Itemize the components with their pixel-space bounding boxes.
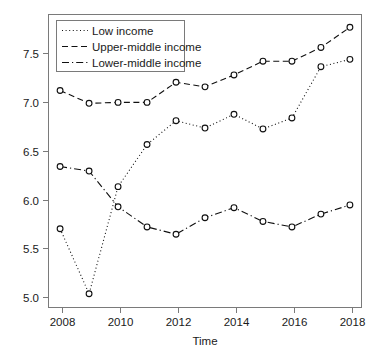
data-point-marker — [289, 115, 295, 121]
data-point-marker — [260, 219, 266, 225]
x-axis-title: Time — [192, 335, 217, 347]
data-point-marker — [289, 224, 295, 230]
data-point-marker — [86, 100, 92, 106]
data-point-marker — [260, 126, 266, 132]
data-point-marker — [144, 100, 150, 106]
data-point-marker — [318, 64, 324, 70]
y-tick-label: 6.0 — [23, 195, 39, 207]
data-point-marker — [260, 58, 266, 64]
data-point-marker — [173, 79, 179, 85]
legend-label: Lower-middle income — [92, 57, 201, 69]
legend-label: Upper-middle income — [92, 41, 201, 53]
series-line — [60, 166, 350, 234]
x-axis-ticks — [63, 308, 353, 314]
legend-label: Low income — [92, 25, 153, 37]
data-point-marker — [231, 111, 237, 117]
x-tick-label: 2012 — [166, 316, 192, 328]
data-point-marker — [289, 58, 295, 64]
data-point-marker — [231, 72, 237, 78]
y-tick-label: 5.5 — [23, 243, 39, 255]
data-point-marker — [173, 118, 179, 124]
y-tick-label: 7.5 — [23, 48, 39, 60]
data-point-marker — [115, 184, 121, 190]
x-tick-label: 2018 — [340, 316, 366, 328]
data-point-marker — [57, 226, 63, 232]
data-point-marker — [57, 88, 63, 94]
data-point-marker — [318, 45, 324, 51]
data-point-marker — [347, 202, 353, 208]
series-lower-middle-income — [57, 164, 353, 238]
data-point-marker — [347, 24, 353, 30]
chart-legend: Low income Upper-middle income Lower-mid… — [57, 21, 202, 72]
data-point-marker — [144, 142, 150, 148]
y-tick-label: 7.0 — [23, 97, 39, 109]
data-point-marker — [202, 215, 208, 221]
y-tick-label: 5.0 — [23, 292, 39, 304]
data-point-marker — [202, 84, 208, 90]
data-point-marker — [86, 291, 92, 297]
data-point-marker — [144, 224, 150, 230]
data-point-marker — [115, 204, 121, 210]
series-low-income — [57, 56, 353, 296]
x-tick-label: 2016 — [282, 316, 308, 328]
y-axis-tick-labels: 7.5 7.0 6.5 6.0 5.5 5.0 — [23, 48, 39, 304]
data-point-marker — [318, 211, 324, 217]
data-point-marker — [202, 125, 208, 131]
data-point-marker — [173, 231, 179, 237]
data-point-marker — [57, 164, 63, 170]
x-tick-label: 2014 — [224, 316, 250, 328]
y-axis-ticks — [43, 54, 49, 298]
chart-container: 7.5 7.0 6.5 6.0 5.5 5.0 2008 2010 2012 2… — [0, 0, 375, 353]
data-point-marker — [115, 100, 121, 106]
y-tick-label: 6.5 — [23, 146, 39, 158]
data-point-marker — [347, 56, 353, 62]
x-tick-label: 2008 — [50, 316, 76, 328]
line-chart: 7.5 7.0 6.5 6.0 5.5 5.0 2008 2010 2012 2… — [0, 0, 375, 353]
series-line — [60, 59, 350, 293]
data-point-marker — [231, 205, 237, 211]
x-tick-label: 2010 — [108, 316, 134, 328]
x-axis-tick-labels: 2008 2010 2012 2014 2016 2018 — [50, 316, 366, 328]
data-point-marker — [86, 168, 92, 174]
